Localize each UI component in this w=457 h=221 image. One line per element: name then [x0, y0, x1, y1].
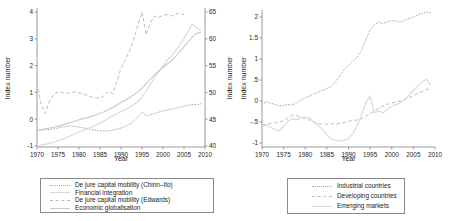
legend-item: Industrial countries	[312, 182, 404, 192]
y-tick-label: 0	[254, 97, 258, 104]
legend-dotted-line-sample	[50, 185, 70, 186]
legend-item: Economic globalisation	[50, 204, 213, 212]
legend-label: Economic globalisation	[75, 205, 140, 211]
y-tick-label: 0	[29, 116, 33, 123]
y-tick-label: -.5	[251, 118, 259, 125]
y-tick-label: 1	[29, 89, 33, 96]
right-y-tick-label: 40	[209, 142, 217, 149]
legend-dashed-line-sample	[50, 200, 70, 201]
right-panel-x-axis-label: Year	[262, 155, 435, 162]
legend-solid-line-sample	[50, 208, 70, 209]
right-y-tick-label: 45	[209, 116, 217, 123]
y-tick-label: 1.5	[249, 34, 258, 41]
y-tick-label: 2	[29, 62, 33, 69]
legend-dotted-line-sample	[312, 186, 332, 187]
legend-label: Developing countries	[337, 193, 397, 199]
left-panel-right-y-axis-label: Index number	[225, 18, 235, 138]
left-panel-y-axis-label: Index number	[3, 18, 13, 138]
legend-item: De jure capital mobility (Chinn–Ito)	[50, 182, 213, 190]
right-y-tick-label: 55	[209, 62, 217, 69]
y-tick-label: -1	[27, 142, 33, 149]
right-y-tick-label: 50	[209, 89, 217, 96]
right-chart-plot: -1-.50.511.52197019751980198519901995200…	[228, 0, 457, 168]
legend-solid-line-sample	[312, 206, 332, 207]
left-panel-legend: De jure capital mobility (Chinn–Ito)Fina…	[40, 178, 214, 213]
legend-dashed-line-sample	[312, 196, 332, 197]
legend-label: Industrial countries	[337, 183, 391, 189]
series-line-0	[37, 104, 201, 131]
dual-panel-line-chart-figure: -101234404550556065197019751980198519901…	[0, 0, 457, 221]
left-chart-plot: -101234404550556065197019751980198519901…	[0, 0, 228, 168]
legend-label: De jure capital mobility (Edwards)	[75, 197, 170, 203]
legend-solid-line-sample	[50, 192, 70, 193]
y-tick-label: .5	[253, 76, 259, 83]
legend-item: Developing countries	[312, 192, 404, 202]
legend-label: De jure capital mobility (Chinn–Ito)	[75, 182, 173, 188]
y-tick-label: 3	[29, 35, 33, 42]
legend-item: Emerging markets	[312, 202, 404, 212]
right-panel-legend: Industrial countriesDeveloping countries…	[287, 178, 405, 214]
legend-label: Emerging markets	[337, 203, 389, 209]
legend-label: Financial integration	[75, 190, 132, 196]
series-line-0	[262, 12, 431, 106]
left-panel-x-axis-label: Year	[37, 155, 205, 162]
y-tick-label: 4	[29, 8, 33, 15]
right-y-tick-label: 60	[209, 35, 217, 42]
y-tick-label: 1	[254, 55, 258, 62]
y-tick-label: 2	[254, 13, 258, 20]
series-line-2	[262, 79, 431, 141]
series-line-1	[37, 24, 201, 146]
right-panel-y-axis-label: Index number	[239, 18, 249, 138]
series-line-3	[37, 32, 201, 130]
right-y-tick-label: 65	[209, 8, 217, 15]
series-line-1	[262, 88, 431, 125]
series-line-2	[37, 12, 184, 113]
y-tick-label: -1	[252, 139, 258, 146]
